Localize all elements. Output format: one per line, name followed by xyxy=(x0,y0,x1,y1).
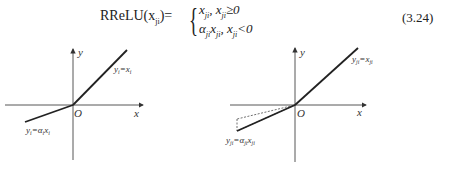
negative-branch xyxy=(25,105,73,122)
x-axis-label: x xyxy=(133,107,139,119)
y-axis-label: y xyxy=(77,46,83,58)
origin-label: O xyxy=(297,107,305,119)
negative-branch-label: yji=αjixji xyxy=(225,135,255,146)
figures: y x O yi=xi yi=αixi y x O yji=xji yji=αj… xyxy=(0,0,459,171)
positive-branch-label: yji=xji xyxy=(351,54,373,65)
figure-leaky-relu: y x O yi=xi yi=αixi xyxy=(5,46,143,160)
x-axis-label: x xyxy=(356,106,362,118)
positive-branch xyxy=(73,50,127,105)
positive-branch-label: yi=xi xyxy=(113,64,132,75)
y-axis-label: y xyxy=(299,46,305,58)
origin-label: O xyxy=(74,107,82,119)
figure-rrelu: y x O yji=xji yji=αjixji xyxy=(225,46,373,162)
negative-branch xyxy=(237,105,295,131)
negative-branch-label: yi=αixi xyxy=(25,125,50,136)
